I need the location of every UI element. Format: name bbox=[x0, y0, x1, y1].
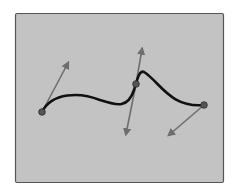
point-1 bbox=[39, 109, 46, 116]
spline-diagram bbox=[0, 0, 236, 190]
point-2 bbox=[133, 81, 140, 88]
point-3 bbox=[201, 102, 208, 109]
diagram-panel bbox=[16, 14, 224, 183]
